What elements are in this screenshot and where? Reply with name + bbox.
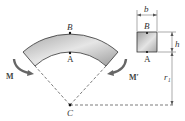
- moment-right-arrowhead-icon: [107, 70, 114, 76]
- moment-left-arrowhead-icon: [27, 70, 34, 76]
- label-a: A: [67, 54, 74, 64]
- cross-section: [137, 32, 157, 52]
- curved-beam-diagram: B A C M M′ B A b h r₁: [0, 0, 185, 121]
- label-height: h: [175, 39, 180, 49]
- point-b: [69, 32, 71, 34]
- arrowhead-icon: [137, 14, 141, 17]
- point-c: [69, 104, 72, 107]
- right-radial-line: [70, 66, 106, 105]
- section-point-a: [146, 51, 148, 53]
- label-c: C: [67, 108, 74, 118]
- label-m-prime: M′: [129, 73, 139, 82]
- section-label-a: A: [144, 54, 151, 64]
- arrowhead-icon: [171, 48, 174, 52]
- moment-left-arrow: [14, 59, 29, 73]
- left-radial-line: [35, 66, 70, 105]
- arrowhead-icon: [171, 101, 174, 105]
- moment-right-arrow: [112, 59, 126, 73]
- arrowhead-icon: [171, 32, 174, 36]
- label-width: b: [144, 4, 149, 14]
- label-m: M: [6, 72, 14, 81]
- section-label-b: B: [144, 21, 150, 31]
- arrowhead-icon: [153, 14, 157, 17]
- label-b: B: [67, 22, 73, 32]
- section-point-b: [146, 32, 148, 34]
- arrowhead-icon: [171, 52, 174, 56]
- label-radius: r₁: [164, 72, 171, 82]
